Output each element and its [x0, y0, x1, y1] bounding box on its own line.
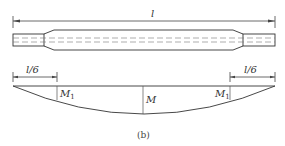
right-moment-label: M1: [214, 88, 230, 101]
tapered-bar: [13, 30, 275, 50]
moment-ordinates: [57, 86, 230, 114]
center-moment-label: M: [145, 94, 157, 105]
figure-caption: (b): [137, 130, 150, 140]
length-dimension: [13, 16, 275, 28]
right-sixth-label: l/6: [244, 64, 258, 75]
left-sixth-label: l/6: [26, 64, 40, 75]
beam-moment-diagram: l l/6 l/6 M1 M: [0, 0, 285, 146]
bar-centerlines: [13, 38, 275, 42]
moment-curve: [13, 86, 275, 114]
left-moment-label: M1: [59, 88, 75, 101]
length-label: l: [151, 8, 154, 19]
